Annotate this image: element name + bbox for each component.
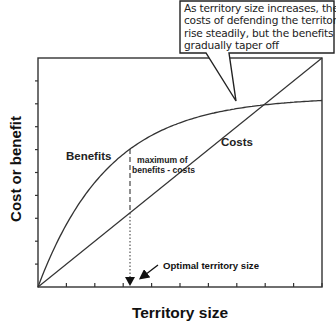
maximum-label-line1: maximum of <box>137 155 188 165</box>
maximum-label-line2: benefits - costs <box>132 165 195 175</box>
optimal-arrowhead-icon <box>125 277 135 286</box>
costs-label: Costs <box>221 136 253 148</box>
x-axis-title: Territory size <box>132 304 229 321</box>
callout-line: gradually taper off <box>184 39 334 51</box>
y-axis-title: Cost or benefit <box>7 116 24 222</box>
callout-line: costs of defending the territory <box>184 14 334 26</box>
optimal-pointer-arrow <box>141 265 158 278</box>
benefits-label: Benefits <box>66 150 111 162</box>
optimal-territory-label: Optimal territory size <box>163 260 259 271</box>
callout-line: rise steadily, but the benefits <box>184 27 334 39</box>
callout-line: As territory size increases, the <box>184 2 334 14</box>
callout-text: As territory size increases, the costs o… <box>184 2 334 52</box>
